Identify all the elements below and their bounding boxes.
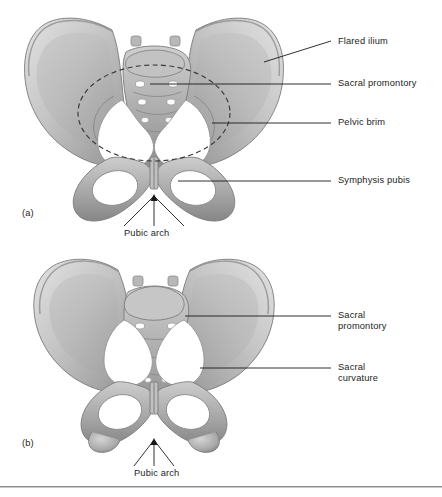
sacral-foramen-l1-a bbox=[135, 81, 144, 87]
label-sacral-curvature-line2: curvature bbox=[338, 373, 378, 384]
label-sacral-promontory-b-line2: promontory bbox=[338, 321, 387, 332]
left-articular-process-a bbox=[131, 36, 141, 46]
panel-letter-b: (b) bbox=[22, 438, 34, 448]
label-pubic-arch-b: Pubic arch bbox=[134, 468, 179, 479]
bottom-divider bbox=[0, 486, 442, 488]
label-pelvic-brim: Pelvic brim bbox=[338, 117, 385, 128]
female-pelvis-drawing bbox=[25, 18, 331, 226]
right-articular-process-b bbox=[168, 276, 178, 286]
label-sacral-promontory-a: Sacral promontory bbox=[338, 78, 417, 89]
sacral-foramen-l2-a bbox=[138, 99, 146, 105]
label-sacral-promontory-b-line1: Sacral bbox=[338, 310, 365, 321]
pelvis-comparison-figure: Flared ilium Sacral promontory Pelvic br… bbox=[0, 0, 442, 497]
label-sacral-curvature-line1: Sacral bbox=[338, 362, 365, 373]
right-articular-process-a bbox=[170, 36, 180, 46]
sacral-foramen-l3-a bbox=[141, 117, 149, 122]
label-symphysis-pubis: Symphysis pubis bbox=[338, 175, 410, 186]
label-flared-ilium: Flared ilium bbox=[338, 36, 388, 47]
sacral-foramen-l1-b bbox=[135, 323, 144, 329]
male-pelvis-drawing bbox=[34, 259, 331, 466]
pubic-arch-marker-b bbox=[134, 438, 174, 466]
pubic-arch-arrowhead-b bbox=[150, 438, 157, 445]
label-pubic-arch-a: Pubic arch bbox=[124, 228, 169, 239]
sacral-foramen-r2-a bbox=[167, 99, 175, 105]
panel-letter-a: (a) bbox=[22, 208, 34, 218]
sacral-base-a bbox=[126, 50, 185, 77]
sacral-promontory-shelf-b bbox=[124, 287, 184, 321]
pubic-arch-arrowhead-a bbox=[150, 194, 157, 201]
pelvis-illustration-svg bbox=[0, 0, 442, 497]
left-articular-process-b bbox=[133, 276, 143, 286]
